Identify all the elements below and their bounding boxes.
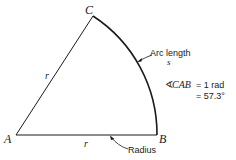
radius-arrowhead xyxy=(110,136,115,141)
angle-name: CAB xyxy=(172,79,191,90)
angle-value-deg: = 57.3° xyxy=(196,91,225,101)
arc-length-arrowhead xyxy=(137,58,142,62)
vertex-label-b: B xyxy=(159,132,167,146)
arc-cb xyxy=(93,16,157,135)
radian-diagram: C A B r r Arc length s Radius ∢ CAB = 1 … xyxy=(0,0,236,160)
arc-length-symbol: s xyxy=(167,57,171,67)
vertex-label-a: A xyxy=(3,132,12,146)
side-ac xyxy=(16,16,93,135)
angle-value-rad: = 1 rad xyxy=(196,80,224,90)
side-label-ab: r xyxy=(84,138,88,149)
vertex-label-c: C xyxy=(85,3,94,17)
radius-label: Radius xyxy=(128,145,157,155)
side-label-ac: r xyxy=(45,70,49,81)
